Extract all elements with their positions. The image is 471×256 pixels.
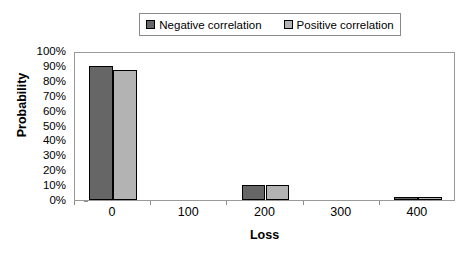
x-axis-tick-mark: [379, 201, 380, 205]
chart-container: Negative correlation Positive correlatio…: [0, 0, 471, 256]
x-axis-tick-label: 200: [254, 205, 275, 219]
x-axis-tick-label: 400: [406, 205, 427, 219]
x-axis-tick-labels: 0100200300400: [74, 205, 455, 225]
x-axis-tick-mark: [226, 201, 227, 205]
bar: [242, 185, 266, 200]
x-axis-tick-mark: [150, 201, 151, 205]
bar: [418, 197, 442, 200]
x-axis-tick-label: 300: [330, 205, 351, 219]
legend-item-positive: Positive correlation: [284, 19, 394, 31]
legend-item-negative: Negative correlation: [146, 19, 261, 31]
x-axis-tick-label: 0: [109, 205, 116, 219]
y-axis-tick-label: 40%: [43, 136, 66, 148]
y-axis-tick-label: 70%: [43, 91, 66, 103]
y-axis-tick-label: 10%: [43, 180, 66, 192]
y-axis-tick-label: 100%: [37, 46, 66, 58]
y-axis-tick-label: 50%: [43, 121, 66, 133]
x-axis-tick-mark: [303, 201, 304, 205]
y-axis-title: Probability: [15, 45, 29, 165]
y-axis-tick-mark: [84, 201, 88, 202]
chart-legend: Negative correlation Positive correlatio…: [139, 13, 401, 36]
bar: [266, 185, 290, 200]
y-axis-tick-label: 0%: [49, 195, 66, 207]
y-axis-tick-label: 80%: [43, 76, 66, 88]
plot-area: [74, 52, 455, 201]
bar: [89, 66, 113, 200]
y-axis-tick-label: 30%: [43, 151, 66, 163]
legend-label-positive: Positive correlation: [297, 19, 394, 31]
y-axis-tick-label: 60%: [43, 106, 66, 118]
legend-label-negative: Negative correlation: [159, 19, 261, 31]
y-axis-tick-label: 90%: [43, 61, 66, 73]
bar: [113, 70, 137, 200]
legend-swatch-negative-icon: [146, 20, 155, 29]
y-axis-tick-label: 20%: [43, 165, 66, 177]
x-axis-title: Loss: [74, 228, 455, 242]
x-axis-tick-mark: [74, 201, 75, 205]
x-axis-tick-label: 100: [178, 205, 199, 219]
legend-swatch-positive-icon: [284, 20, 293, 29]
bar: [394, 197, 418, 200]
